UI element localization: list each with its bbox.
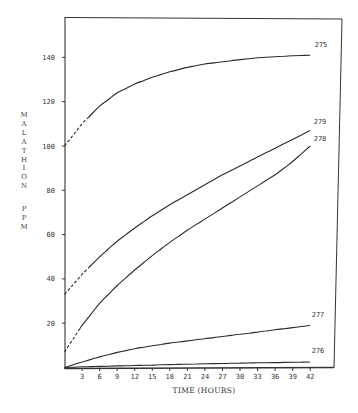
x-axis-line bbox=[65, 368, 335, 369]
x-tick-label: 3 bbox=[80, 373, 84, 381]
y-tick-label: 20 bbox=[47, 320, 55, 328]
series-label-278: 278 bbox=[314, 135, 327, 143]
y-tick-label: 120 bbox=[42, 98, 55, 106]
y-tick-label: 60 bbox=[47, 231, 55, 239]
x-tick-label: 27 bbox=[218, 373, 226, 381]
curve-275 bbox=[88, 55, 310, 118]
malathion-ppm-line-chart: 20406080100120140 3691215182124273033363… bbox=[0, 0, 358, 413]
y-axis-ticks: 20406080100120140 bbox=[42, 54, 65, 328]
x-tick-label: 9 bbox=[115, 373, 119, 381]
y-tick-label: 80 bbox=[47, 187, 55, 195]
curve-276 bbox=[65, 362, 311, 368]
y-axis-title-letter: L bbox=[22, 129, 27, 137]
frame-top bbox=[65, 18, 342, 20]
y-axis-title-letter: A bbox=[20, 120, 27, 128]
y-axis-title-letter: P bbox=[22, 214, 27, 222]
curve-279-extrapolated bbox=[65, 265, 92, 294]
data-curves bbox=[65, 55, 311, 367]
x-tick-label: 42 bbox=[306, 373, 314, 381]
y-axis-title: MALATHIONPPM bbox=[20, 111, 27, 231]
series-labels: 275279278277276 bbox=[312, 41, 328, 355]
series-label-277: 277 bbox=[312, 311, 325, 319]
y-axis-title-letter: I bbox=[23, 164, 26, 172]
x-tick-label: 12 bbox=[130, 373, 138, 381]
y-tick-label: 40 bbox=[47, 275, 55, 283]
x-tick-label: 39 bbox=[288, 373, 296, 381]
x-tick-label: 30 bbox=[236, 373, 244, 381]
x-tick-label: 36 bbox=[271, 373, 279, 381]
x-tick-label: 6 bbox=[97, 373, 101, 381]
y-axis-title-letter: T bbox=[22, 147, 27, 155]
curve-279 bbox=[90, 131, 310, 267]
y-axis-title-letter: H bbox=[21, 156, 27, 164]
x-axis-ticks: 3691215182124273033363942 bbox=[80, 368, 314, 381]
curve-275-extrapolated bbox=[65, 118, 88, 146]
y-axis-title-letter: A bbox=[20, 138, 27, 146]
x-tick-label: 24 bbox=[201, 373, 209, 381]
series-label-279: 279 bbox=[314, 118, 327, 126]
series-label-275: 275 bbox=[315, 41, 328, 49]
y-tick-label: 140 bbox=[42, 54, 55, 62]
y-tick-label: 100 bbox=[42, 143, 55, 151]
curve-278-extrapolated bbox=[65, 329, 80, 352]
y-axis-title-letter: M bbox=[20, 111, 27, 119]
x-tick-label: 21 bbox=[183, 373, 191, 381]
x-tick-label: 33 bbox=[253, 373, 261, 381]
frame-right bbox=[334, 19, 342, 368]
series-label-276: 276 bbox=[312, 347, 325, 355]
x-tick-label: 18 bbox=[166, 373, 174, 381]
x-tick-label: 15 bbox=[148, 373, 156, 381]
y-axis-title-letter: N bbox=[21, 182, 27, 190]
y-axis-title-letter: O bbox=[21, 173, 27, 181]
x-axis-title: TIME (HOURS) bbox=[173, 386, 236, 395]
plot-frame bbox=[65, 17, 343, 369]
y-axis-title-letter: P bbox=[22, 205, 27, 213]
curve-277 bbox=[65, 325, 311, 367]
curve-278 bbox=[80, 146, 311, 329]
y-axis-title-letter: M bbox=[20, 223, 27, 231]
